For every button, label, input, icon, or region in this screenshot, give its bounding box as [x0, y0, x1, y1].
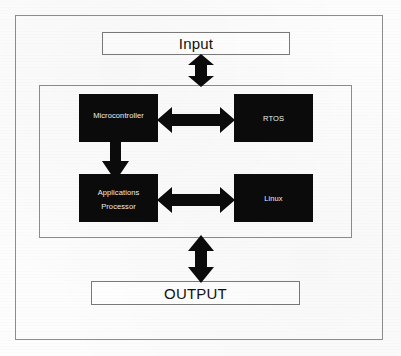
block-applications-processor-label-line1: Applications [98, 186, 140, 200]
block-linux-label: Linux [264, 192, 282, 206]
double-arrow-vertical-icon [188, 235, 214, 283]
output-box[interactable]: OUTPUT [91, 281, 300, 305]
input-box[interactable]: Input [102, 32, 290, 55]
block-microcontroller-label: Microcontroller [93, 109, 144, 123]
arrow-down-icon [102, 130, 129, 181]
double-arrow-horizontal-icon [157, 187, 235, 213]
output-box-label: OUTPUT [164, 286, 227, 301]
double-arrow-vertical-icon [188, 54, 214, 87]
double-arrow-horizontal-icon [157, 107, 235, 133]
block-rtos-label: RTOS [263, 112, 284, 126]
block-applications-processor[interactable]: Applications Processor [79, 174, 158, 222]
block-rtos[interactable]: RTOS [234, 94, 313, 142]
block-linux[interactable]: Linux [234, 174, 313, 222]
input-box-label: Input [179, 36, 213, 51]
diagram-canvas: Input Microcontroller RTOS Applications … [0, 0, 401, 356]
block-applications-processor-label-line2: Processor [101, 200, 136, 214]
